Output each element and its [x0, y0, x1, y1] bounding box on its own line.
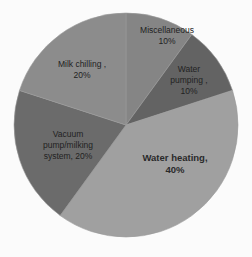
label-miscellaneous: Miscellaneous 10%	[140, 25, 194, 47]
pie-slices	[14, 13, 238, 237]
label-water-pumping: Water pumping , 10%	[170, 64, 207, 97]
pie-chart	[0, 0, 252, 257]
label-milk-chilling: Milk chilling , 20%	[58, 59, 106, 81]
label-vacuum-pump: Vacuum pump/milking system, 20%	[43, 129, 93, 162]
label-water-heating: Water heating, 40%	[142, 152, 207, 176]
